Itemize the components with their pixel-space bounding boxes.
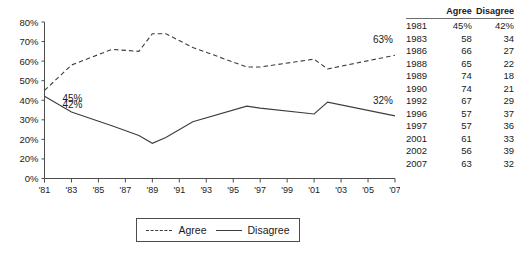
column-header-year bbox=[406, 6, 440, 19]
x-tick-label: '89 bbox=[146, 185, 158, 195]
y-tick-label: 20% bbox=[19, 134, 39, 145]
x-tick-label: '95 bbox=[227, 185, 239, 195]
table-cell-agree: 74 bbox=[440, 82, 472, 95]
column-header-agree: Agree bbox=[440, 6, 472, 19]
table-cell-agree: 65 bbox=[440, 57, 472, 70]
y-axis: 80%70%60%50%40%30%20%20%0% bbox=[19, 17, 44, 185]
series-line-agree bbox=[45, 34, 396, 91]
table-cell-year: 1983 bbox=[406, 32, 440, 45]
data-point-label: 32% bbox=[373, 95, 393, 106]
table-cell-year: 1989 bbox=[406, 69, 440, 82]
table-cell-disagree: 33 bbox=[472, 132, 514, 145]
table-cell-agree: 63 bbox=[440, 157, 472, 170]
x-tick-label: '01 bbox=[308, 185, 320, 195]
table-row: 20025639 bbox=[406, 144, 514, 157]
table-cell-agree: 57 bbox=[440, 119, 472, 132]
legend-entry-agree: Agree bbox=[146, 225, 206, 236]
table-cell-year: 2007 bbox=[406, 157, 440, 170]
legend-label-disagree: Disagree bbox=[248, 225, 290, 236]
table-cell-year: 1996 bbox=[406, 107, 440, 120]
solid-line-icon bbox=[216, 230, 242, 231]
table-cell-disagree: 27 bbox=[472, 44, 514, 57]
table-cell-year: 1988 bbox=[406, 57, 440, 70]
x-tick-label: '87 bbox=[120, 185, 132, 195]
x-tick-label: '97 bbox=[254, 185, 266, 195]
table-cell-year: 1990 bbox=[406, 82, 440, 95]
legend-entry-disagree: Disagree bbox=[216, 225, 290, 236]
table-cell-disagree: 29 bbox=[472, 94, 514, 107]
x-tick-label: '81 bbox=[39, 185, 51, 195]
table-header-row: Agree Disagree bbox=[406, 6, 514, 19]
legend-label-agree: Agree bbox=[178, 225, 206, 236]
x-tick-label: '99 bbox=[281, 185, 293, 195]
data-table: Agree Disagree 198145%42%198358341986662… bbox=[406, 6, 514, 169]
table-cell-agree: 56 bbox=[440, 144, 472, 157]
table-cell-disagree: 18 bbox=[472, 69, 514, 82]
table-cell-disagree: 21 bbox=[472, 82, 514, 95]
table-cell-year: 1986 bbox=[406, 44, 440, 57]
y-tick-label: 70% bbox=[19, 36, 39, 47]
table-cell-year: 1992 bbox=[406, 94, 440, 107]
table-cell-agree: 67 bbox=[440, 94, 472, 107]
data-point-label: 63% bbox=[373, 34, 393, 45]
data-point-labels: 45%42%63%32% bbox=[63, 34, 394, 110]
table-cell-agree: 57 bbox=[440, 107, 472, 120]
table-cell-disagree: 37 bbox=[472, 107, 514, 120]
table-row: 19965737 bbox=[406, 107, 514, 120]
table-cell-agree: 61 bbox=[440, 132, 472, 145]
dashed-line-icon bbox=[146, 230, 172, 231]
table-row: 19926729 bbox=[406, 94, 514, 107]
table-row: 19886522 bbox=[406, 57, 514, 70]
chart-legend: Agree Disagree bbox=[136, 218, 300, 242]
column-header-disagree: Disagree bbox=[472, 6, 514, 19]
x-tick-label: '83 bbox=[66, 185, 78, 195]
x-tick-label: '05 bbox=[362, 185, 374, 195]
table-cell-disagree: 34 bbox=[472, 32, 514, 45]
y-tick-label: 30% bbox=[19, 114, 39, 125]
x-tick-label: '93 bbox=[200, 185, 212, 195]
x-tick-label: '03 bbox=[335, 185, 347, 195]
table-row: 20016133 bbox=[406, 132, 514, 145]
x-tick-label: '85 bbox=[93, 185, 105, 195]
table-cell-disagree: 36 bbox=[472, 119, 514, 132]
data-table-panel: Agree Disagree 198145%42%198358341986662… bbox=[406, 6, 514, 169]
chart-page: 80%70%60%50%40%30%20%20%0% '81'83'85'87'… bbox=[0, 0, 521, 254]
x-axis-ticks: '81'83'85'87'89'91'93'95'97'99'01'03'05'… bbox=[39, 179, 400, 195]
table-row: 19866627 bbox=[406, 44, 514, 57]
table-header: Agree Disagree bbox=[406, 6, 514, 19]
x-tick-label: '91 bbox=[173, 185, 185, 195]
table-cell-disagree: 22 bbox=[472, 57, 514, 70]
y-tick-label: 80% bbox=[19, 17, 39, 28]
table-cell-year: 2001 bbox=[406, 132, 440, 145]
table-cell-agree: 45% bbox=[440, 19, 472, 32]
table-cell-year: 1981 bbox=[406, 19, 440, 32]
table-body: 198145%42%198358341986662719886522198974… bbox=[406, 19, 514, 170]
table-cell-year: 1997 bbox=[406, 119, 440, 132]
table-row: 20076332 bbox=[406, 157, 514, 170]
y-tick-label: 60% bbox=[19, 56, 39, 67]
line-chart: 80%70%60%50%40%30%20%20%0% '81'83'85'87'… bbox=[0, 0, 400, 254]
table-row: 19907421 bbox=[406, 82, 514, 95]
table-cell-agree: 74 bbox=[440, 69, 472, 82]
table-cell-disagree: 32 bbox=[472, 157, 514, 170]
chart-canvas: 80%70%60%50%40%30%20%20%0% '81'83'85'87'… bbox=[0, 0, 400, 254]
x-axis: '81'83'85'87'89'91'93'95'97'99'01'03'05'… bbox=[39, 179, 400, 195]
series-line-disagree bbox=[45, 96, 396, 143]
table-cell-agree: 58 bbox=[440, 32, 472, 45]
table-row: 19975736 bbox=[406, 119, 514, 132]
y-tick-label: 0% bbox=[25, 173, 39, 184]
y-axis-ticks: 80%70%60%50%40%30%20%20%0% bbox=[19, 17, 44, 185]
y-tick-label: 50% bbox=[19, 75, 39, 86]
y-tick-label: 40% bbox=[19, 95, 39, 106]
table-row: 198145%42% bbox=[406, 19, 514, 32]
x-tick-label: '07 bbox=[389, 185, 400, 195]
data-point-label: 42% bbox=[63, 99, 83, 110]
table-cell-year: 2002 bbox=[406, 144, 440, 157]
y-tick-label: 20% bbox=[19, 153, 39, 164]
table-row: 19835834 bbox=[406, 32, 514, 45]
table-cell-disagree: 42% bbox=[472, 19, 514, 32]
table-cell-disagree: 39 bbox=[472, 144, 514, 157]
table-row: 19897418 bbox=[406, 69, 514, 82]
table-cell-agree: 66 bbox=[440, 44, 472, 57]
